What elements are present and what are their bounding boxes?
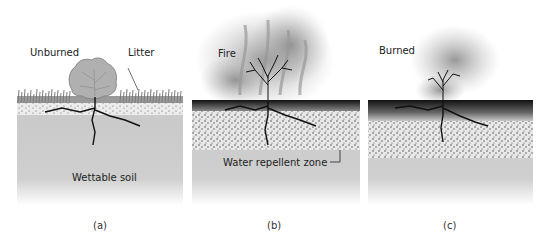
litter-dotted-layer — [17, 102, 183, 115]
wettable-soil-layer — [17, 100, 183, 205]
diagram-canvas — [0, 0, 548, 242]
label-unburned: Unburned — [30, 47, 79, 58]
label-burned: Burned — [379, 45, 415, 56]
caption-a: (a) — [93, 220, 107, 231]
label-litter: Litter — [128, 47, 154, 58]
caption-b: (b) — [267, 220, 281, 231]
label-fire: Fire — [218, 48, 236, 59]
label-water-repellent-zone: Water repellent zone — [223, 157, 327, 168]
water-repellent-zone — [368, 120, 533, 158]
label-wettable-soil: Wettable soil — [72, 172, 137, 183]
leaf-icon — [69, 58, 116, 99]
caption-c: (c) — [443, 220, 456, 231]
litter-pointer — [128, 68, 138, 90]
burned-surface — [368, 100, 533, 121]
water-repellent-zone — [192, 110, 360, 150]
panel-b — [192, 5, 360, 205]
burned-surface — [192, 100, 360, 111]
